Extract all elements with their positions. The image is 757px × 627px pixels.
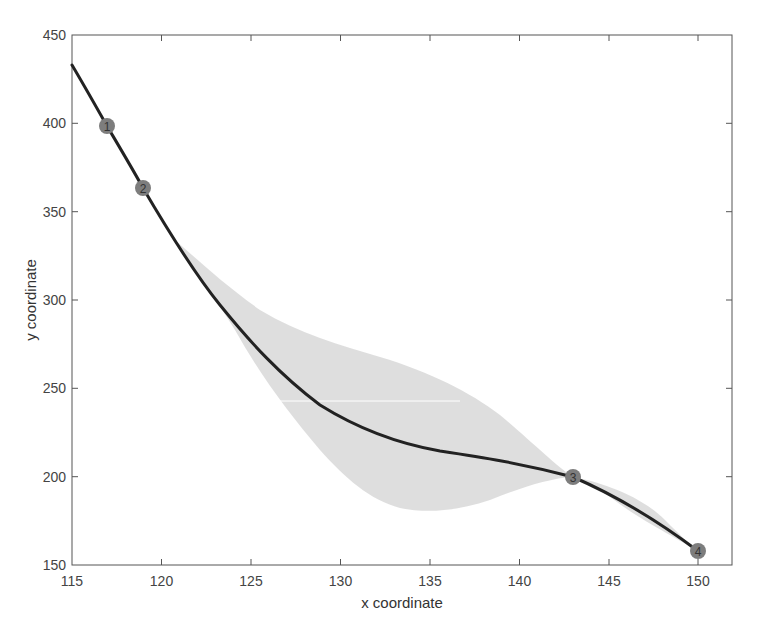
marker-label: 2 <box>140 182 147 196</box>
marker-label: 4 <box>695 545 702 559</box>
y-tick-label: 350 <box>43 204 67 220</box>
y-tick-label: 200 <box>43 469 67 485</box>
y-tick-label: 250 <box>43 380 67 396</box>
marker-label: 3 <box>570 471 577 485</box>
x-tick-label: 145 <box>597 573 621 589</box>
y-tick-label: 450 <box>43 27 67 43</box>
x-tick-label: 140 <box>508 573 532 589</box>
y-axis-label: y coordinate <box>22 259 39 341</box>
x-tick-label: 115 <box>61 573 84 589</box>
x-tick-label: 120 <box>150 573 174 589</box>
point-marker-3[interactable]: 3 <box>565 469 581 485</box>
x-tick-label: 125 <box>239 573 263 589</box>
uncertainty-band <box>175 240 698 551</box>
point-marker-2[interactable]: 2 <box>135 180 151 196</box>
point-marker-1[interactable]: 1 <box>99 118 115 134</box>
x-axis-label: x coordinate <box>361 594 443 611</box>
y-tick-label: 150 <box>43 557 67 573</box>
marker-label: 1 <box>104 120 111 134</box>
y-tick-label: 300 <box>43 292 67 308</box>
chart-canvas: 115 120 125 130 135 140 145 150 x coordi… <box>0 0 757 627</box>
x-tick-label: 130 <box>329 573 353 589</box>
y-tick-label: 400 <box>43 115 67 131</box>
x-tick-label: 135 <box>418 573 442 589</box>
x-axis: 115 120 125 130 135 140 145 150 x coordi… <box>61 35 710 611</box>
x-tick-label: 150 <box>686 573 710 589</box>
point-marker-4[interactable]: 4 <box>690 543 706 559</box>
